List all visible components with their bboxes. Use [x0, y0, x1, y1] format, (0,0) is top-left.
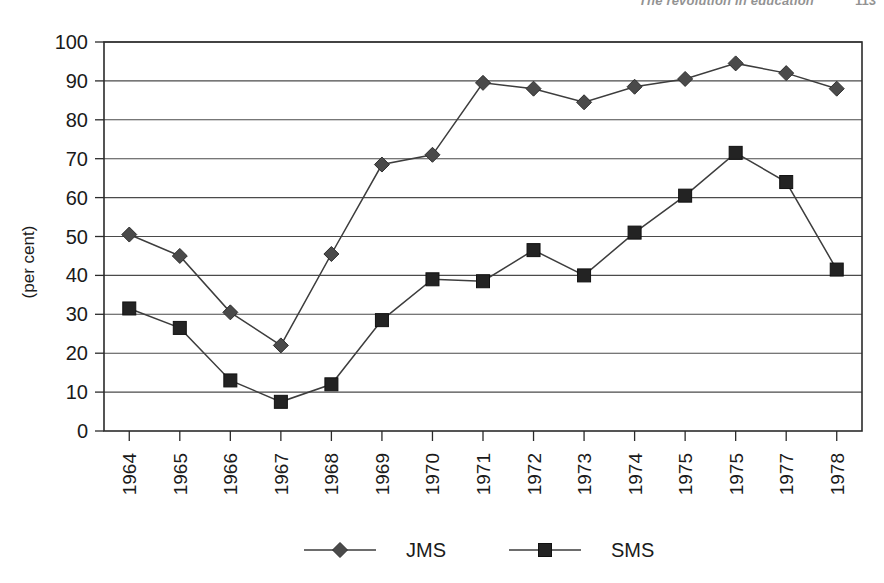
x-tick-label: 1971 [473, 453, 494, 495]
legend-marker-jms [333, 543, 348, 558]
data-point-jms [425, 147, 440, 162]
x-tick-label: 1978 [827, 453, 848, 495]
legend-label-jms: JMS [406, 539, 446, 561]
y-tick-label: 10 [66, 381, 88, 403]
data-point-jms [476, 75, 491, 90]
data-point-jms [728, 56, 743, 71]
data-point-sms [679, 189, 692, 202]
x-tick-label: 1966 [220, 453, 241, 495]
chart-legend: JMSSMS [304, 539, 654, 561]
x-tick-label: 1977 [776, 453, 797, 495]
x-tick-label: 1964 [119, 453, 140, 496]
x-tick-label: 1972 [524, 453, 545, 495]
data-point-jms [577, 95, 592, 110]
line-chart-figure: 0102030405060708090100 19641965196619671… [0, 0, 884, 583]
data-point-sms [173, 321, 186, 334]
x-tick-label: 1968 [321, 453, 342, 495]
y-tick-label: 40 [66, 264, 88, 286]
data-point-jms [122, 227, 137, 242]
y-tick-label: 90 [66, 70, 88, 92]
y-axis-tick-labels: 0102030405060708090100 [55, 31, 88, 442]
data-point-sms [224, 374, 237, 387]
y-tick-label: 30 [66, 303, 88, 325]
y-axis-title-text: (per cent) [19, 226, 38, 299]
data-series [122, 56, 844, 408]
x-axis-ticks [129, 431, 836, 441]
x-tick-label: 1970 [422, 453, 443, 495]
legend-marker-sms [539, 544, 552, 557]
data-point-jms [324, 247, 339, 262]
x-tick-label: 1975 [726, 453, 747, 495]
data-point-sms [780, 176, 793, 189]
legend-label-sms: SMS [611, 539, 654, 561]
data-point-sms [426, 273, 439, 286]
y-tick-label: 50 [66, 226, 88, 248]
y-tick-label: 0 [77, 420, 88, 442]
x-axis-tick-labels: 1964196519661967196819691970197119721973… [119, 453, 847, 496]
data-point-sms [527, 244, 540, 257]
data-point-sms [578, 269, 591, 282]
x-tick-label: 1975 [675, 453, 696, 495]
x-tick-label: 1967 [271, 453, 292, 495]
chart-canvas: 0102030405060708090100 19641965196619671… [0, 0, 884, 583]
gridlines [104, 42, 862, 392]
series-line-jms [129, 63, 836, 345]
x-tick-label: 1969 [372, 453, 393, 495]
data-point-sms [477, 275, 490, 288]
y-tick-label: 60 [66, 187, 88, 209]
x-tick-label: 1973 [574, 453, 595, 495]
data-point-jms [273, 338, 288, 353]
data-point-jms [678, 71, 693, 86]
data-point-jms [779, 66, 794, 81]
y-axis-ticks [95, 42, 104, 431]
data-point-jms [829, 81, 844, 96]
y-tick-label: 80 [66, 109, 88, 131]
data-point-sms [123, 302, 136, 315]
y-tick-label: 20 [66, 342, 88, 364]
x-tick-label: 1974 [625, 453, 646, 496]
data-point-sms [325, 378, 338, 391]
y-tick-label: 100 [55, 31, 88, 53]
data-point-sms [628, 226, 641, 239]
data-point-jms [627, 79, 642, 94]
data-point-jms [374, 157, 389, 172]
data-point-sms [375, 314, 388, 327]
y-axis-title: (per cent) [19, 226, 38, 299]
x-tick-label: 1965 [170, 453, 191, 495]
data-point-sms [729, 146, 742, 159]
data-point-sms [830, 263, 843, 276]
y-tick-label: 70 [66, 148, 88, 170]
data-point-sms [274, 395, 287, 408]
data-point-jms [526, 81, 541, 96]
